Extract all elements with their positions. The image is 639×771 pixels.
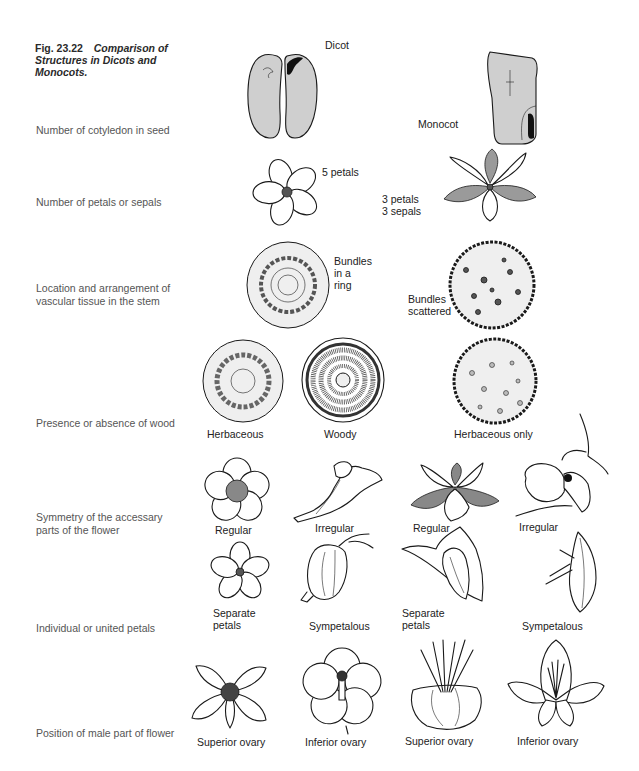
monocot-stem-caption-line-2: scattered xyxy=(408,305,468,317)
monocot-separate-petals-caption: Separate petals xyxy=(402,607,462,631)
monocot-stem-caption-line-1: Bundles xyxy=(408,293,468,305)
dicot-stem-caption-line-3: ring xyxy=(334,279,384,291)
row-label-cotyledon: Number of cotyledon in seed xyxy=(36,124,181,137)
dicot-stem-caption: Bundles in a ring xyxy=(334,255,384,291)
row-label-petals: Number of petals or sepals xyxy=(36,196,181,209)
monocot-flower-illustration xyxy=(440,145,540,225)
row-label-male-part: Position of male part of flower xyxy=(36,727,181,740)
woody-caption: Woody xyxy=(324,428,357,440)
dicot-flower-illustration xyxy=(250,160,325,225)
figure-number: Fig. 23.22 xyxy=(35,42,83,54)
monocot-superior-ovary-caption: Superior ovary xyxy=(405,735,473,747)
dicot-inferior-ovary-illustration xyxy=(296,648,391,733)
dicot-separate-petals-caption: Separate petals xyxy=(213,607,273,631)
herbaceous-caption: Herbaceous xyxy=(207,428,264,440)
monocot-regular-flower-illustration xyxy=(405,463,505,525)
dicot-flower-caption: 5 petals xyxy=(322,166,359,178)
monocot-caption: Monocot xyxy=(418,118,458,130)
dicot-seed-illustration xyxy=(245,50,325,140)
dicot-inferior-ovary-caption: Inferior ovary xyxy=(305,736,366,748)
monocot-seed-illustration xyxy=(484,48,544,148)
dicot-caption: Dicot xyxy=(325,39,349,51)
monocot-separate-petals-illustration xyxy=(400,525,490,605)
dicot-stem-caption-line-1: Bundles xyxy=(334,255,384,267)
monocot-flower-caption-line-1: 3 petals xyxy=(382,193,442,205)
monocot-stem-caption: Bundles scattered xyxy=(408,293,468,317)
dicot-regular-caption: Regular xyxy=(215,524,252,536)
dicot-superior-ovary-caption: Superior ovary xyxy=(197,736,265,748)
monocot-separate-petals-caption-line-1: Separate xyxy=(402,607,462,619)
woody-stem-illustration xyxy=(300,336,386,424)
monocot-sympetalous-illustration xyxy=(540,528,610,618)
monocot-irregular-flower-illustration xyxy=(510,408,620,520)
dicot-separate-petals-illustration xyxy=(205,540,275,602)
monocot-superior-ovary-illustration xyxy=(403,636,488,731)
row-label-wood: Presence or absence of wood xyxy=(36,417,181,430)
monocot-separate-petals-caption-line-2: petals xyxy=(402,619,462,631)
dicot-sympetalous-caption: Sympetalous xyxy=(309,620,370,632)
figure-caption: Fig. 23.22 Comparison of Structures in D… xyxy=(35,42,195,78)
dicot-regular-flower-illustration xyxy=(200,458,275,523)
monocot-inferior-ovary-caption: Inferior ovary xyxy=(517,735,578,747)
monocot-flower-caption: 3 petals 3 sepals xyxy=(382,193,442,217)
dicot-separate-petals-caption-line-1: Separate xyxy=(213,607,273,619)
dicot-stem-illustration xyxy=(245,240,331,330)
dicot-sympetalous-illustration xyxy=(295,530,380,610)
row-label-united-petals: Individual or united petals xyxy=(36,622,196,635)
monocot-sympetalous-caption: Sympetalous xyxy=(522,620,583,632)
monocot-inferior-ovary-illustration xyxy=(506,638,606,728)
dicot-stem-caption-line-2: in a xyxy=(334,267,384,279)
herbaceous-stem-illustration xyxy=(201,338,285,424)
monocot-flower-caption-line-2: 3 sepals xyxy=(382,205,442,217)
dicot-superior-ovary-illustration xyxy=(190,656,270,731)
dicot-separate-petals-caption-line-2: petals xyxy=(213,619,273,631)
row-label-symmetry: Symmetry of the accessary parts of the f… xyxy=(36,511,186,536)
dicot-irregular-flower-illustration xyxy=(290,458,385,523)
row-label-vascular: Location and arrangement of vascular tis… xyxy=(36,282,181,307)
